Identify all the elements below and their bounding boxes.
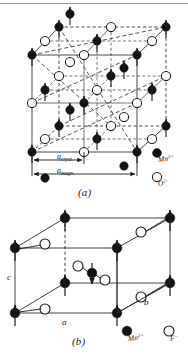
axis-label-c: c — [7, 272, 11, 282]
legend-label-fminus: F− — [169, 333, 178, 343]
panel-a-legend-markers — [148, 144, 188, 199]
dimension-label-a-cryst: acryst. — [57, 152, 73, 162]
figure-root: acryst. amagn. Mn2+ O2− (a) — [0, 0, 188, 357]
legend-label-mn2plus-a: Mn2+ — [157, 153, 174, 164]
axis-label-b: b — [144, 297, 149, 307]
panel-a-caption: (a) — [78, 186, 91, 198]
panel-b-spin-arrows — [15, 210, 170, 326]
legend-label-o2minus: O2− — [157, 178, 169, 188]
dimension-label-a-magn: amagn. — [57, 166, 75, 176]
axis-label-a: a — [62, 317, 67, 327]
panel-b-cation-sites — [10, 210, 175, 326]
panel-b-caption: (b) — [72, 335, 85, 347]
legend-label-mn2plus-b: Mn2+ — [127, 332, 144, 343]
